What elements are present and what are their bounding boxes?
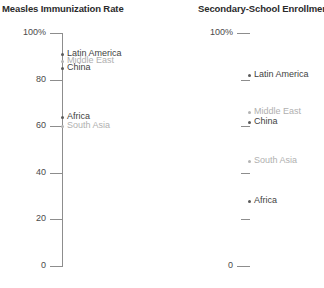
chart-figure: Measles Immunization Rate 100%806040200 … [0,0,324,288]
chart-title-right: Secondary-School Enrollments [198,3,324,14]
chart-panel-secondary-school-enrollments: Secondary-School Enrollments 100%0 Latin… [162,0,324,288]
y-axis-tick-label: 100% [210,27,233,37]
y-axis-tick [50,80,63,81]
data-point-dot [61,67,64,70]
data-point-dot [248,111,251,114]
y-axis-tick-label: 0 [228,260,233,270]
data-point-dot [248,160,251,163]
data-point-label: Africa [254,195,277,205]
data-point-label: Latin America [254,69,309,79]
data-point-label: China [254,116,278,126]
data-point-dot [61,116,64,119]
y-axis-tick [237,266,250,267]
data-point-label: Middle East [254,106,301,116]
data-point-dot [61,60,64,63]
data-point-dot [61,53,64,56]
y-axis-tick-label: 60 [36,120,46,130]
data-point-dot [248,74,251,77]
y-axis-tick-label: 40 [36,167,46,177]
y-axis-tick [241,126,250,127]
data-point-label: China [67,62,91,72]
y-axis-tick-label: 0 [41,260,46,270]
y-axis-tick [241,173,250,174]
y-axis-tick [50,219,63,220]
y-axis-tick [50,266,63,267]
data-point-label: South Asia [254,155,297,165]
data-point-dot [61,125,64,128]
y-axis-tick-label: 80 [36,74,46,84]
y-axis-tick-label: 20 [36,213,46,223]
y-axis-tick-label: 100% [23,27,46,37]
y-axis-tick [241,219,250,220]
y-axis-tick [237,33,250,34]
y-axis-tick [241,80,250,81]
y-axis-tick [50,33,63,34]
chart-panel-measles-immunization-rate: Measles Immunization Rate 100%806040200 … [0,0,162,288]
data-point-dot [248,200,251,203]
data-point-dot [248,121,251,124]
y-axis-tick [50,173,63,174]
data-point-label: South Asia [67,120,110,130]
chart-title-left: Measles Immunization Rate [2,3,124,14]
